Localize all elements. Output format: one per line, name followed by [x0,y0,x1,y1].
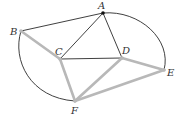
edge-D-E [122,58,164,70]
edge-F-E [75,70,164,101]
label-B: B [9,26,17,37]
node-E [162,68,166,72]
edge-A-C [60,13,103,59]
label-D: D [121,45,130,56]
edge-B-F-arc [19,31,75,101]
node-A [101,11,105,15]
label-A: A [97,0,105,11]
edge-D-F [75,58,122,101]
edge-C-D [60,58,122,59]
edge-C-F [60,59,75,101]
node-F [73,99,77,103]
label-C: C [55,46,63,57]
graph-diagram: A B C D E F [0,0,182,119]
node-C [58,57,62,61]
label-F: F [70,105,79,116]
edge-A-B [21,13,103,31]
node-B [19,29,23,33]
edge-A-D [103,13,122,58]
node-D [120,56,124,60]
label-E: E [166,67,175,78]
